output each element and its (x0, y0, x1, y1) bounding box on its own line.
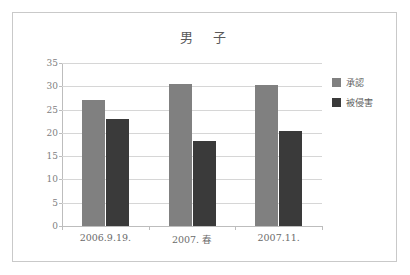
bar-hishingai (193, 141, 216, 226)
y-axis-tick-label: 30 (24, 81, 58, 91)
x-axis-separator (62, 226, 63, 230)
bar-hishingai (106, 119, 129, 226)
y-axis-tick-label: 10 (24, 174, 58, 184)
legend-swatch-icon (332, 98, 341, 107)
legend-label: 承認 (346, 76, 364, 89)
legend-swatch-icon (332, 78, 341, 87)
y-axis-tick-labels: 35302520151050 (20, 63, 58, 226)
bar-shonin (255, 85, 278, 226)
chart-figure: 男 子 35302520151050 2006.9.19.2007. 春2007… (0, 0, 410, 275)
x-axis-category-label: 2007. 春 (149, 232, 236, 246)
x-axis-separator (235, 226, 236, 230)
y-axis-tick-label: 5 (24, 198, 58, 208)
legend-label: 被侵害 (346, 96, 374, 109)
x-axis-category-label: 2006.9.19. (62, 232, 149, 243)
bar-hishingai (279, 131, 302, 226)
chart-title: 男 子 (0, 27, 410, 46)
chart-legend: 承認被侵害 (332, 72, 394, 112)
bar-shonin (82, 100, 105, 226)
x-axis-separator (149, 226, 150, 230)
y-axis-tick-label: 20 (24, 128, 58, 138)
x-axis-category-labels: 2006.9.19.2007. 春2007.11. (62, 232, 322, 248)
legend-item-shonin: 承認 (332, 72, 394, 92)
x-axis-category-label: 2007.11. (235, 232, 322, 243)
plot-area (62, 63, 322, 226)
bar-group (169, 63, 216, 226)
y-axis-tick-label: 25 (24, 105, 58, 115)
y-axis-tick-label: 0 (24, 221, 58, 231)
legend-item-hishingai: 被侵害 (332, 92, 394, 112)
x-axis-separator (322, 226, 323, 230)
bar-group (82, 63, 129, 226)
bar-group (255, 63, 302, 226)
y-axis-tick-label: 15 (24, 151, 58, 161)
gridline (62, 226, 322, 227)
bar-shonin (169, 84, 192, 226)
y-axis-tick-label: 35 (24, 58, 58, 68)
